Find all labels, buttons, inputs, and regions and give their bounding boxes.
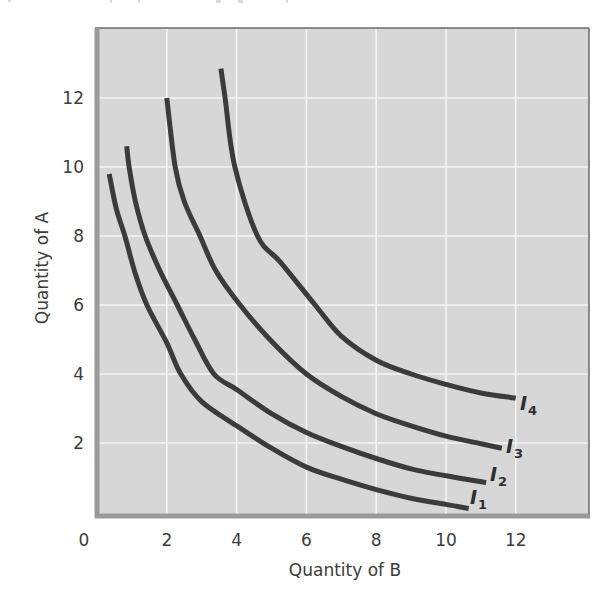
x-tick-label: 2 [161,530,172,550]
y-tick-label: 12 [62,88,84,108]
indifference-curve-chart: I1I2I3I4 024681012 24681012 Quantity of … [0,0,611,601]
y-tick-label: 2 [73,433,84,453]
x-tick-label: 8 [371,530,382,550]
x-axis-tick-labels: 024681012 [79,530,527,550]
x-tick-label: 4 [231,530,242,550]
top-cropped-text-artifact [8,0,288,3]
y-tick-label: 4 [73,364,84,384]
y-axis-title: Quantity of A [32,211,52,324]
y-tick-label: 6 [73,295,84,315]
x-tick-label: 6 [301,530,312,550]
y-tick-label: 8 [73,226,84,246]
x-tick-label: 12 [505,530,527,550]
y-tick-label: 10 [62,157,84,177]
x-axis-title: Quantity of B [289,560,401,580]
x-tick-label: 10 [435,530,457,550]
x-tick-label: 0 [79,530,90,550]
y-axis-tick-labels: 24681012 [62,88,84,453]
